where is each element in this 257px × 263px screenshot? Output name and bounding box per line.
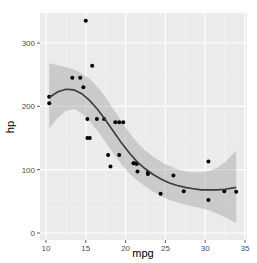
data-point xyxy=(70,76,74,80)
y-tick-label: 300 xyxy=(22,39,36,48)
y-tick-label: 0 xyxy=(31,229,36,238)
data-point xyxy=(81,85,85,89)
data-point xyxy=(206,159,210,163)
data-point xyxy=(95,117,99,121)
data-point xyxy=(121,120,125,124)
data-point xyxy=(117,153,121,157)
data-point xyxy=(117,120,121,124)
data-point xyxy=(85,117,89,121)
x-tick-label: 15 xyxy=(81,244,90,253)
data-point xyxy=(84,19,88,23)
data-point xyxy=(182,189,186,193)
data-point xyxy=(109,165,113,169)
data-point xyxy=(136,170,140,174)
x-tick-label: 20 xyxy=(121,244,130,253)
data-point xyxy=(206,198,210,202)
y-axis-title: hp xyxy=(4,121,16,133)
data-point xyxy=(90,64,94,68)
data-point xyxy=(47,101,51,105)
x-tick-label: 10 xyxy=(42,244,51,253)
x-tick-label: 30 xyxy=(201,244,210,253)
data-point xyxy=(113,120,117,124)
data-point xyxy=(78,76,82,80)
data-point xyxy=(106,153,110,157)
y-tick-label: 200 xyxy=(22,102,36,111)
data-point xyxy=(85,136,89,140)
data-point xyxy=(171,173,175,177)
y-tick-label: 100 xyxy=(22,166,36,175)
data-point xyxy=(234,190,238,194)
scatter-chart: 101520253035 0100200300 mpg hp xyxy=(0,0,257,263)
x-axis-title: mpg xyxy=(132,247,153,259)
x-tick-label: 35 xyxy=(241,244,250,253)
x-tick-label: 25 xyxy=(161,244,170,253)
data-point xyxy=(159,192,163,196)
y-axis: 0100200300 xyxy=(22,39,40,238)
